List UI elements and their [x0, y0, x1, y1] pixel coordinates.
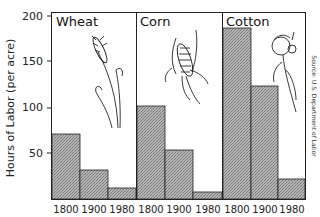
x-tick-wheat-1900: 1900: [81, 204, 106, 215]
x-axis: 1800 1900 1980 1800 1900 1980 1800 1900 …: [53, 204, 304, 215]
panel-title-corn: Corn: [140, 14, 170, 29]
x-tick-cotton-1900: 1900: [252, 204, 277, 215]
bar-wheat-1900: [80, 170, 108, 199]
x-tick-corn-1900: 1900: [166, 204, 191, 215]
bar-cotton-1980: [278, 179, 305, 199]
y-axis-label: Hours of Labor (per acre): [4, 39, 17, 178]
bar-corn-1980: [193, 192, 222, 199]
bar-wheat-1980: [108, 188, 136, 199]
bar-cotton-1900: [251, 86, 278, 199]
wheat-icon: [90, 36, 122, 128]
bars-corn: [137, 106, 222, 199]
bars-cotton: [223, 28, 305, 199]
x-tick-wheat-1800: 1800: [53, 204, 78, 215]
y-tick-200: 200: [22, 10, 43, 23]
y-tick-50: 50: [29, 147, 43, 160]
x-tick-cotton-1800: 1800: [224, 204, 249, 215]
labor-hours-chart: Hours of Labor (per acre) 200 150 100 50…: [0, 0, 320, 217]
x-tick-wheat-1980: 1980: [109, 204, 134, 215]
panel-title-wheat: Wheat: [56, 14, 98, 29]
x-tick-cotton-1980: 1980: [279, 204, 304, 215]
y-tick-150: 150: [22, 55, 43, 68]
bar-corn-1900: [165, 150, 193, 199]
y-axis: 200 150 100 50: [22, 10, 51, 160]
bar-cotton-1800: [223, 28, 251, 199]
bars-wheat: [52, 134, 136, 199]
bar-corn-1800: [137, 106, 165, 199]
x-tick-corn-1980: 1980: [195, 204, 220, 215]
x-tick-corn-1800: 1800: [138, 204, 163, 215]
bar-wheat-1800: [52, 134, 80, 199]
corn-icon: [165, 30, 208, 104]
panel-title-cotton: Cotton: [226, 14, 269, 29]
source-note: Source: U.S. Department of Labor: [310, 55, 318, 157]
y-tick-100: 100: [22, 101, 43, 114]
